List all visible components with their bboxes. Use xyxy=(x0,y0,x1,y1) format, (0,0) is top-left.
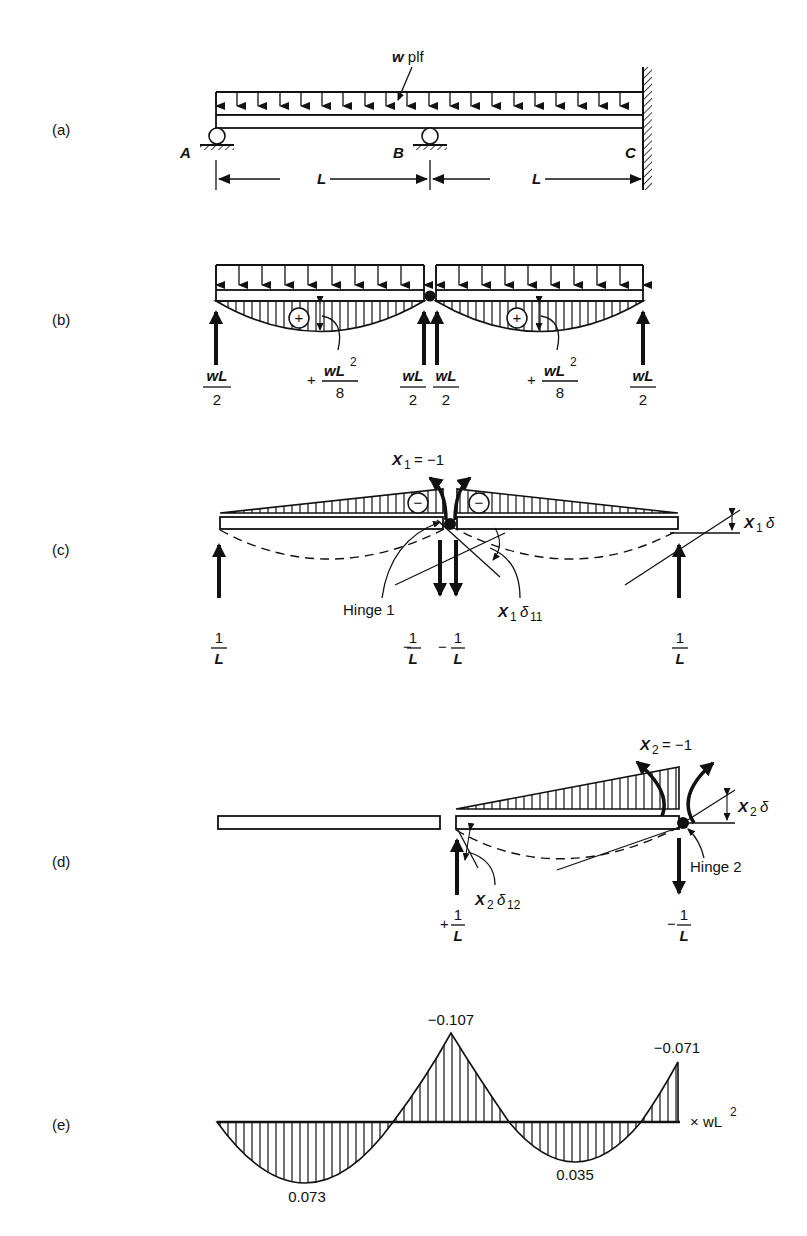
svg-text:wL: wL xyxy=(544,362,565,379)
beam xyxy=(216,115,643,128)
deflected-shape xyxy=(456,825,683,859)
distributed-load-left xyxy=(216,265,424,290)
svg-text:12: 12 xyxy=(507,898,521,912)
deflected-shape-left xyxy=(220,526,450,559)
beam-right xyxy=(457,517,678,529)
svg-text:wL: wL xyxy=(324,362,345,379)
panel-label-d: (d) xyxy=(52,853,70,870)
reaction-label-1: wL 2 xyxy=(203,367,231,408)
beam-right xyxy=(456,816,679,829)
svg-text:= −1: = −1 xyxy=(662,736,692,753)
hinge xyxy=(425,291,436,302)
svg-text:X: X xyxy=(639,736,651,753)
redundant-x2-label: X 2 = −1 xyxy=(639,736,692,757)
rotation-x2-delta12-label: X 2 δ 12 xyxy=(474,891,521,912)
distributed-load: w plf xyxy=(216,48,643,115)
svg-text:+: + xyxy=(295,309,304,326)
svg-text:+: + xyxy=(440,915,449,932)
support-label-b: B xyxy=(393,144,404,161)
svg-text:L: L xyxy=(453,927,462,944)
reaction-label-1: + 1 L xyxy=(440,906,465,944)
svg-text:wL: wL xyxy=(403,367,424,384)
svg-text:−: − xyxy=(667,915,676,932)
negative-sign-left: − xyxy=(408,493,428,513)
svg-text:X: X xyxy=(743,514,755,531)
value-support-b: −0.107 xyxy=(428,1011,474,1028)
svg-text:8: 8 xyxy=(556,384,564,401)
value-support-c: −0.071 xyxy=(654,1039,700,1056)
svg-text:X: X xyxy=(737,798,749,815)
reaction-label-4: wL 2 xyxy=(630,367,656,408)
reaction-label-4: 1 L xyxy=(672,629,688,667)
svg-text:wL: wL xyxy=(207,367,228,384)
roller-support-a: A xyxy=(179,128,234,161)
panel-d: (d) X 2 = −1 Hinge 2 X 2 δ xyxy=(52,736,769,944)
moment-diagram-right xyxy=(457,489,678,513)
hinge-2-label: Hinge 2 xyxy=(690,858,742,875)
moment-diagram xyxy=(456,767,679,809)
svg-text:L: L xyxy=(214,650,223,667)
rotation-x2-delta-right-label: X 2 δ xyxy=(737,798,769,819)
beam-analysis-figure: (a) xyxy=(0,0,807,1236)
panel-label-b: (b) xyxy=(52,311,70,328)
svg-text:8: 8 xyxy=(336,384,344,401)
rotation-x1-delta-right-label: X 1 δ xyxy=(743,514,775,535)
reaction-label-1: 1 L xyxy=(211,629,227,667)
dimension-lines: L L xyxy=(216,160,641,190)
panel-label-a: (a) xyxy=(52,121,70,138)
reaction-label-3: wL 2 xyxy=(433,367,459,408)
svg-text:× wL: × wL xyxy=(690,1113,722,1130)
moment-region-support-c-negative xyxy=(641,1062,678,1122)
svg-text:1: 1 xyxy=(454,906,462,923)
negative-sign-right: − xyxy=(469,493,489,513)
dimension-l-1: L xyxy=(317,170,326,187)
rotation-x1-delta11-label: X 1 δ 11 xyxy=(497,603,543,624)
hinge-1-label: Hinge 1 xyxy=(343,601,395,618)
svg-text:2: 2 xyxy=(652,743,659,757)
svg-text:2: 2 xyxy=(730,1105,737,1119)
svg-text:δ: δ xyxy=(497,891,506,908)
moment-region-span2-positive xyxy=(509,1122,641,1162)
panel-e: (e) −0.107 −0.071 0.073 0.035 × wL 2 xyxy=(52,1011,737,1205)
panel-a: (a) xyxy=(52,48,652,190)
svg-text:2: 2 xyxy=(213,391,221,408)
svg-text:δ: δ xyxy=(520,603,529,620)
svg-text:L: L xyxy=(453,650,462,667)
svg-text:1: 1 xyxy=(756,521,763,535)
svg-text:2: 2 xyxy=(750,805,757,819)
positive-sign-right: + xyxy=(507,308,527,328)
svg-text:+: + xyxy=(527,371,536,388)
svg-text:−: − xyxy=(438,638,447,655)
reaction-label-3: − 1 L xyxy=(438,629,465,667)
panel-label-e: (e) xyxy=(52,1116,70,1133)
svg-text:L: L xyxy=(679,927,688,944)
svg-text:2: 2 xyxy=(442,391,450,408)
moment-arrow-right xyxy=(688,763,713,823)
svg-text:L: L xyxy=(408,650,417,667)
beam-right xyxy=(436,290,643,301)
svg-text:−: − xyxy=(475,494,484,511)
load-arrows xyxy=(216,92,620,106)
svg-text:wL: wL xyxy=(633,367,654,384)
svg-text:δ: δ xyxy=(760,798,769,815)
svg-text:2: 2 xyxy=(570,355,577,369)
svg-text:wL: wL xyxy=(436,367,457,384)
svg-text:1: 1 xyxy=(404,458,411,472)
svg-text:1: 1 xyxy=(409,629,417,646)
positive-sign-left: + xyxy=(289,308,309,328)
value-span1: 0.073 xyxy=(288,1188,326,1205)
svg-text:2: 2 xyxy=(487,898,494,912)
svg-text:2: 2 xyxy=(639,391,647,408)
roller-support-b: B xyxy=(393,128,447,161)
svg-text:δ: δ xyxy=(766,514,775,531)
svg-text:1: 1 xyxy=(680,906,688,923)
support-label-a: A xyxy=(179,144,191,161)
panel-label-c: (c) xyxy=(52,541,70,558)
panel-b: (b) xyxy=(52,265,656,408)
svg-text:L: L xyxy=(675,650,684,667)
panel-c: (c) X 1 = −1 − − xyxy=(52,451,775,667)
unit-label: × wL 2 xyxy=(690,1105,737,1130)
svg-text:X: X xyxy=(497,603,509,620)
beam-left xyxy=(218,816,440,829)
svg-text:+: + xyxy=(513,309,522,326)
